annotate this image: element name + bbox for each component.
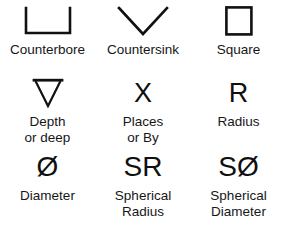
caption-line: Square [217,42,261,58]
depth-glyph [32,76,64,110]
caption-countersink: Countersink [107,42,179,58]
caption-line: or deep [25,130,71,146]
square-symbol-icon [224,5,254,37]
caption-line: Diameter [210,204,266,220]
caption-line: Spherical [115,188,171,204]
countersink-glyph [116,4,170,38]
symbol-cell-countersink: Countersink [95,4,191,76]
diameter-symbol-icon: Ø [37,153,59,181]
radius-glyph: R [229,76,249,110]
symbol-cell-square: Square [191,4,286,76]
caption-line: Counterbore [10,42,85,58]
spherical-radius-symbol-icon: SR [124,153,163,181]
places-glyph: X [134,76,152,110]
radius-symbol-icon: R [229,80,249,107]
caption-line: Diameter [20,188,75,204]
caption-radius: Radius [217,114,259,130]
caption-line: Countersink [107,42,179,58]
caption-square: Square [217,42,261,58]
symbol-cell-diameter: Ø Diameter [0,150,95,225]
spherical-radius-glyph: SR [124,150,163,184]
caption-line: or By [123,130,164,146]
caption-line: Places [123,114,164,130]
symbol-cell-radius: R Radius [191,76,286,150]
caption-line: Radius [217,114,259,130]
symbol-cell-spherical-radius: SR Spherical Radius [95,150,191,225]
square-glyph [224,4,254,38]
spherical-diameter-glyph: SØ [218,150,258,184]
depth-symbol-icon [32,77,64,109]
caption-line: Radius [115,204,171,220]
countersink-symbol-icon [116,6,170,36]
symbol-cell-depth: Depth or deep [0,76,95,150]
caption-spherical-radius: Spherical Radius [115,188,171,219]
caption-spherical-diameter: Spherical Diameter [210,188,266,219]
symbol-cell-places: X Places or By [95,76,191,150]
caption-counterbore: Counterbore [10,42,85,58]
symbol-cell-spherical-diameter: SØ Spherical Diameter [191,150,286,225]
counterbore-glyph [23,4,73,38]
symbol-reference-chart: Counterbore Countersink Square [0,0,286,225]
caption-places: Places or By [123,114,164,145]
places-symbol-icon: X [134,80,152,107]
counterbore-symbol-icon [23,6,73,36]
caption-line: Spherical [210,188,266,204]
spherical-diameter-symbol-icon: SØ [218,153,258,181]
caption-diameter: Diameter [20,188,75,204]
caption-line: Depth [25,114,71,130]
diameter-glyph: Ø [37,150,59,184]
symbol-cell-counterbore: Counterbore [0,4,95,76]
caption-depth: Depth or deep [25,114,71,145]
